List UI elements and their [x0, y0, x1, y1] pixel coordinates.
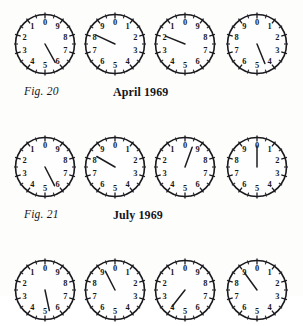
- dial-numeral: 0: [255, 264, 259, 273]
- dial-numeral: 5: [43, 184, 47, 193]
- dial-numeral: 9: [56, 268, 60, 277]
- figure-date-label: April 1969: [113, 85, 168, 100]
- dial-numeral: 9: [56, 22, 60, 31]
- dial-numeral: 9: [196, 22, 200, 31]
- dial-numeral: 9: [100, 268, 104, 277]
- dial-numeral: 7: [234, 292, 238, 301]
- meter-dial: 0123456789: [12, 11, 78, 77]
- dial-numeral: 5: [43, 307, 47, 316]
- dial-numeral: 8: [234, 156, 238, 165]
- dial-numeral: 3: [22, 292, 26, 301]
- dial-numeral: 6: [100, 57, 104, 66]
- dial-numeral: 8: [203, 279, 207, 288]
- dial-numeral: 3: [133, 46, 137, 55]
- dial-numeral: 3: [22, 46, 26, 55]
- dial-numeral: 5: [255, 184, 259, 193]
- dial-numeral: 1: [126, 268, 130, 277]
- dial-numeral: 3: [162, 46, 166, 55]
- dial-numeral: 1: [126, 145, 130, 154]
- figure-caption-row: Fig. 20April 1969: [0, 85, 303, 103]
- dial-numeral: 2: [22, 279, 26, 288]
- meter-dial: 0123456789: [152, 257, 218, 323]
- figure-number-label: Fig. 21: [24, 208, 59, 220]
- dial-numeral: 1: [170, 268, 174, 277]
- dial-numeral: 2: [162, 33, 166, 42]
- dial-numeral: 0: [43, 18, 47, 27]
- dial-numeral: 3: [275, 169, 279, 178]
- dial-row: 0123456789012345678901234567890123456789: [0, 134, 303, 212]
- dial-numeral: 7: [234, 46, 238, 55]
- dial-numeral: 8: [203, 33, 207, 42]
- dial-numeral: 0: [113, 18, 117, 27]
- dial-numeral: 7: [203, 169, 207, 178]
- dial-numeral: 8: [92, 33, 96, 42]
- dial-numeral: 7: [234, 169, 238, 178]
- meter-dial: 0123456789: [12, 134, 78, 200]
- dial-numeral: 6: [242, 180, 246, 189]
- dial-numeral: 1: [268, 22, 272, 31]
- dial-numeral: 0: [183, 141, 187, 150]
- dial-numeral: 1: [170, 145, 174, 154]
- dial-numeral: 9: [56, 145, 60, 154]
- meter-dial: 0123456789: [82, 257, 148, 323]
- dial-numeral: 0: [113, 141, 117, 150]
- figure-number-label: Fig. 20: [24, 85, 59, 97]
- dial-numeral: 0: [183, 264, 187, 273]
- dial-numeral: 7: [203, 292, 207, 301]
- dial-numeral: 8: [63, 33, 67, 42]
- dial-numeral: 2: [22, 156, 26, 165]
- dial-numeral: 5: [113, 184, 117, 193]
- dial-numeral: 1: [268, 145, 272, 154]
- dial-numeral: 3: [275, 46, 279, 55]
- dial-numeral: 1: [170, 22, 174, 31]
- dial-numeral: 5: [183, 184, 187, 193]
- dial-numeral: 8: [234, 279, 238, 288]
- dial-numeral: 6: [196, 57, 200, 66]
- dial-numeral: 5: [255, 61, 259, 70]
- dial-numeral: 9: [196, 145, 200, 154]
- meter-dial: 0123456789: [152, 134, 218, 200]
- dial-numeral: 9: [242, 22, 246, 31]
- dial-numeral: 0: [43, 264, 47, 273]
- dial-numeral: 8: [234, 33, 238, 42]
- dial-numeral: 5: [183, 307, 187, 316]
- dial-numeral: 0: [183, 18, 187, 27]
- dial-numeral: 7: [63, 46, 67, 55]
- dial-numeral: 3: [275, 292, 279, 301]
- dial-numeral: 5: [255, 307, 259, 316]
- dial-numeral: 9: [242, 145, 246, 154]
- dial-numeral: 6: [242, 57, 246, 66]
- dial-numeral: 6: [196, 180, 200, 189]
- figure-caption-row: Fig. 21July 1969: [0, 208, 303, 226]
- meter-dial: 0123456789: [82, 134, 148, 200]
- dial-numeral: 1: [268, 268, 272, 277]
- dial-numeral: 1: [126, 22, 130, 31]
- dial-numeral: 7: [63, 292, 67, 301]
- dial-numeral: 0: [113, 264, 117, 273]
- meter-dial: 0123456789: [152, 11, 218, 77]
- dial-numeral: 6: [196, 303, 200, 312]
- dial-numeral: 5: [43, 61, 47, 70]
- dial-row: 0123456789012345678901234567890123456789: [0, 11, 303, 89]
- dial-numeral: 6: [100, 303, 104, 312]
- dial-numeral: 3: [133, 169, 137, 178]
- dial-numeral: 1: [30, 22, 34, 31]
- dial-numeral: 3: [22, 169, 26, 178]
- dial-numeral: 2: [275, 279, 279, 288]
- dial-numeral: 7: [92, 169, 96, 178]
- meter-dial: 0123456789: [82, 11, 148, 77]
- dial-numeral: 2: [133, 279, 137, 288]
- dial-numeral: 6: [56, 303, 60, 312]
- dial-numeral: 6: [56, 180, 60, 189]
- dial-numeral: 8: [92, 156, 96, 165]
- figure-date-label: July 1969: [113, 208, 163, 223]
- meter-dial: 0123456789: [224, 11, 290, 77]
- dial-numeral: 7: [92, 292, 96, 301]
- dial-numeral: 2: [275, 33, 279, 42]
- dial-numeral: 5: [183, 61, 187, 70]
- dial-numeral: 6: [242, 303, 246, 312]
- dial-numeral: 2: [133, 33, 137, 42]
- dial-numeral: 7: [92, 46, 96, 55]
- dial-numeral: 8: [92, 279, 96, 288]
